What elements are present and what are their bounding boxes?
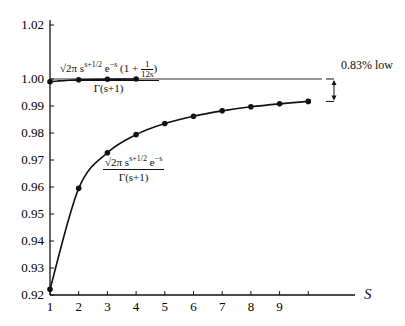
data-point — [162, 121, 168, 127]
data-point — [47, 79, 53, 85]
x-tick-label: 2 — [75, 299, 82, 314]
data-point — [191, 113, 197, 119]
y-tick-label: 0.94 — [21, 233, 44, 248]
data-point — [306, 99, 312, 105]
data-point — [248, 104, 254, 110]
y-tick-label: 1.02 — [21, 17, 44, 32]
data-point — [76, 186, 82, 192]
y-tick-label: 0.95 — [21, 206, 44, 221]
series-line-2 — [50, 101, 308, 289]
data-point — [47, 287, 53, 293]
x-tick-label: 4 — [133, 299, 140, 314]
x-tick-label: 5 — [162, 299, 169, 314]
y-tick-label: 0.96 — [21, 179, 44, 194]
x-tick-label: 7 — [219, 299, 226, 314]
y-tick-label: 0.93 — [21, 260, 44, 275]
y-tick-label: 1.00 — [21, 71, 44, 86]
y-tick-label: 0.92 — [21, 287, 44, 302]
data-point — [133, 132, 139, 138]
data-point — [277, 101, 283, 107]
x-tick-label: 1 — [47, 299, 54, 314]
arrow-down-icon — [332, 95, 337, 100]
y-tick-label: 0.98 — [21, 125, 44, 140]
x-tick-label: 8 — [248, 299, 255, 314]
x-tick-label: 6 — [190, 299, 197, 314]
x-tick-label: 3 — [104, 299, 111, 314]
y-tick-label: 0.99 — [21, 98, 44, 113]
x-axis-label: S — [364, 286, 372, 303]
formula-corrected-stirling: √2π ss+1/2 e−s (1 + 112s) Γ(s+1) — [58, 60, 159, 95]
x-tick-label: 9 — [276, 299, 283, 314]
error-annotation: 0.83% low — [341, 58, 393, 73]
formula-stirling: √2π ss+1/2 e−s Γ(s+1) — [103, 154, 164, 184]
data-point — [219, 108, 225, 114]
plot-area: 0.920.930.940.950.960.970.980.991.001.02… — [0, 0, 405, 326]
arrow-up-icon — [332, 80, 337, 85]
y-tick-label: 0.97 — [21, 152, 44, 167]
